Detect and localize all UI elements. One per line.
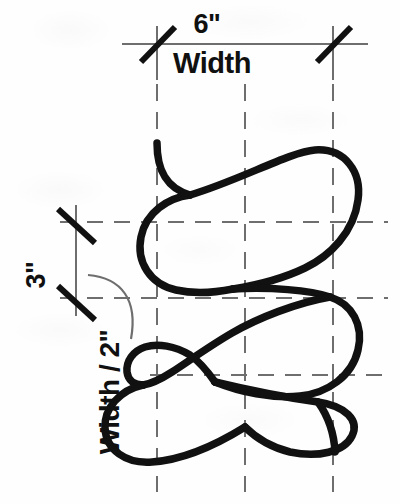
motif-bridge-1 (233, 288, 330, 297)
height-dimension-value: 3" (23, 262, 50, 289)
half-width-dimension-label: Width / 2" (96, 330, 124, 455)
motif-loop-left-1 (140, 195, 233, 293)
diagram-canvas: 6" Width 3" Width / 2" (0, 0, 400, 504)
motif-lead-out (318, 402, 335, 452)
motif-loop-left-3 (105, 385, 245, 462)
serpentine-loop-path (105, 143, 360, 462)
motif-loop-left-2 (143, 297, 330, 385)
width-dimension-value: 6" (194, 11, 221, 38)
width-dimension-label: Width (173, 49, 251, 78)
motif-lead-in (157, 143, 190, 195)
